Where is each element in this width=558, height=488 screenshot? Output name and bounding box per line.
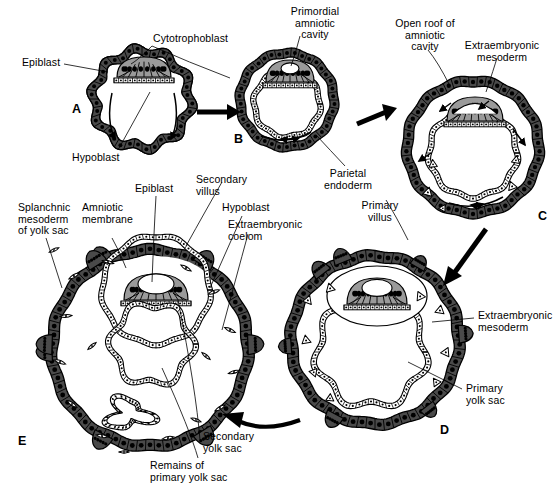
- label-primary-yolk-sac: Primary yolk sac: [466, 383, 505, 406]
- panel-letter-c: C: [538, 209, 547, 223]
- panel-e-splanchnic-mesoderm-cell-5: [224, 326, 236, 334]
- label-secondary-villus-b: Secondary villus: [196, 174, 247, 197]
- label-cytotrophoblast: Cytotrophoblast: [153, 33, 228, 45]
- hypoblast-row: [263, 83, 317, 88]
- label-remains-primary-yolk-sac: Remains of primary yolk sac: [150, 460, 227, 483]
- arrow-b-to-c: [357, 104, 397, 124]
- panel-e-splanchnic-mesoderm-cell-13: [87, 341, 97, 350]
- label-epiblast-a: Epiblast: [22, 57, 60, 69]
- panel-d-primary-villus-2: [458, 324, 474, 343]
- label-extraembryonic-mesoderm-d: Extraembryonic mesoderm: [478, 310, 552, 333]
- panel-e-secondary-villus-2: [248, 334, 265, 355]
- panel-e-splanchnic-mesoderm-cell-14: [201, 351, 211, 360]
- label-primordial-amniotic-cavity: Primordial amniotic cavity: [278, 6, 352, 41]
- panel-letter-e: E: [18, 434, 26, 448]
- diagram-canvas: [0, 0, 558, 488]
- label-hypoblast-e: Hypoblast: [222, 202, 270, 214]
- arrow-d-to-e: [222, 412, 300, 428]
- panel-letter-d: D: [440, 423, 449, 437]
- arrow-c-to-d: [443, 229, 486, 286]
- panel-letter-b: B: [234, 132, 243, 146]
- embryology-figure: Epiblast Cytotrophoblast Hypoblast Primo…: [0, 0, 558, 488]
- panel-c-embryonic-disc: [447, 97, 503, 121]
- hypoblast-row: [114, 78, 174, 83]
- panel-d-primary-villus-5: [278, 338, 292, 355]
- panel-d-mesoderm-cell-8: [326, 393, 335, 401]
- panel-d-mesoderm-cell-5: [441, 346, 453, 357]
- label-secondary-yolk-sac: Secondary yolk sac: [203, 431, 254, 454]
- panel-e-splanchnic-mesoderm-cell-12: [190, 417, 201, 423]
- label-epiblast-e: Epiblast: [135, 183, 173, 195]
- label-parietal-endoderm: Parietal endoderm: [316, 168, 380, 191]
- arrow-a-to-b: [197, 104, 241, 120]
- hypoblast-row: [444, 122, 506, 127]
- label-extraembryonic-mesoderm-c: Extraembryonic mesoderm: [456, 40, 548, 63]
- label-hypoblast-a: Hypoblast: [72, 152, 120, 164]
- panel-e-splanchnic-mesoderm-cell-15: [119, 451, 130, 454]
- label-open-roof-amniotic-cavity: Open roof of amniotic cavity: [386, 18, 464, 53]
- label-splanchnic-mesoderm-yolk-sac: Splanchnic mesoderm of yolk sac: [18, 202, 70, 237]
- label-primary-villus: Primary villus: [350, 200, 410, 223]
- panel-letter-a: A: [72, 102, 81, 116]
- hypoblast-row: [344, 305, 410, 310]
- panel-e-remains-primary-yolk-sac: [102, 394, 160, 430]
- panel-d-mesoderm-cell-4: [301, 334, 311, 344]
- panel-d-mesoderm-cell-3: [435, 304, 445, 314]
- label-extraembryonic-coelom: Extraembryonic coelom: [228, 219, 302, 242]
- label-amniotic-membrane: Amniotic membrane: [82, 202, 133, 225]
